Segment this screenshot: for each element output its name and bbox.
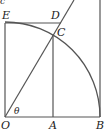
ray-OD bbox=[5, 0, 74, 117]
label-theta: θ bbox=[14, 106, 20, 116]
partial-text: c bbox=[0, 0, 5, 6]
label-B: B bbox=[95, 119, 104, 129]
geometry-diagram: c E D C θ O A B bbox=[0, 0, 105, 129]
label-D: D bbox=[50, 9, 60, 22]
label-E: E bbox=[1, 9, 10, 22]
label-A: A bbox=[48, 119, 57, 129]
label-O: O bbox=[1, 119, 10, 129]
label-C: C bbox=[57, 26, 66, 39]
